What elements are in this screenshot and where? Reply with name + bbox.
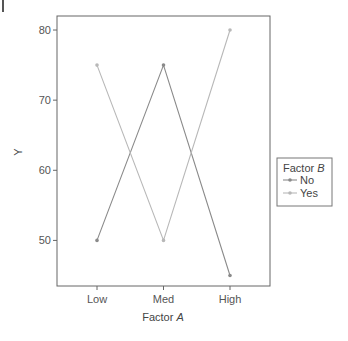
x-tick-label: Low bbox=[87, 293, 107, 305]
y-tick-label: 50 bbox=[39, 234, 51, 246]
x-axis: LowMedHigh bbox=[87, 286, 241, 305]
y-tick-label: 60 bbox=[39, 164, 51, 176]
y-axis: 50607080 bbox=[39, 24, 57, 246]
y-tick-label: 80 bbox=[39, 24, 51, 36]
legend: Factor B NoYes bbox=[277, 158, 332, 206]
data-point bbox=[95, 239, 99, 243]
x-tick-label: Med bbox=[153, 293, 174, 305]
legend-label: Yes bbox=[300, 187, 318, 199]
y-tick-label: 70 bbox=[39, 94, 51, 106]
data-point bbox=[162, 239, 166, 243]
interaction-plot: 50607080 LowMedHigh Y Factor A Factor B … bbox=[0, 0, 348, 341]
y-axis-title: Y bbox=[12, 148, 24, 156]
legend-label: No bbox=[300, 174, 314, 186]
data-point bbox=[162, 63, 166, 67]
x-axis-title: Factor A bbox=[142, 311, 184, 323]
data-point bbox=[228, 28, 232, 32]
data-point bbox=[95, 63, 99, 67]
legend-title: Factor B bbox=[283, 162, 325, 174]
data-point bbox=[228, 274, 232, 278]
legend-key-point bbox=[288, 178, 292, 182]
x-tick-label: High bbox=[219, 293, 242, 305]
legend-key-point bbox=[288, 191, 292, 195]
plot-panel bbox=[57, 16, 270, 286]
